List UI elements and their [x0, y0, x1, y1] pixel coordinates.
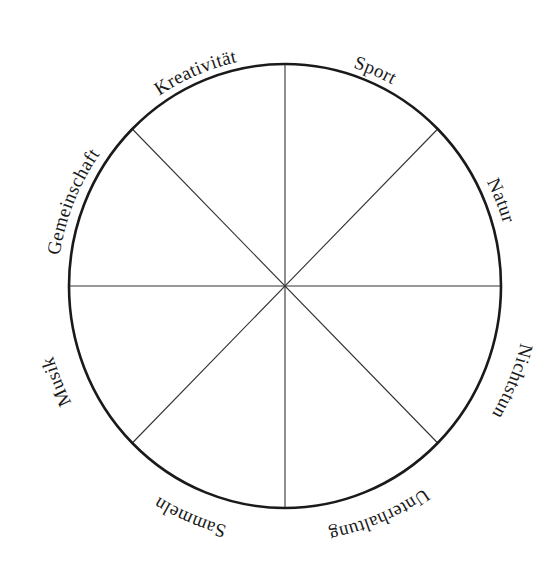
label-natur: Natur: [483, 175, 520, 226]
label-nichtstun: Nichtstun: [488, 342, 537, 423]
interest-wheel: Sport Natur Gemeinschaft Kreativität Sam…: [0, 0, 549, 577]
label-musik: Musik: [37, 354, 76, 410]
label-sport: Sport: [352, 52, 401, 89]
wheel-labels: Sport Natur Gemeinschaft Kreativität Sam…: [37, 45, 538, 545]
wheel-dividers: [69, 64, 501, 508]
label-sammeln: Sammeln: [150, 493, 228, 542]
label-unterhaltung: Unterhaltung: [327, 485, 434, 546]
